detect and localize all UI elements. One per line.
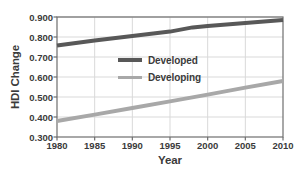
legend-entry: Developed bbox=[118, 53, 218, 67]
legend-color-swatch bbox=[118, 58, 142, 62]
y-tick-label: 0.600 bbox=[20, 73, 53, 82]
x-tick-label: 1990 bbox=[112, 140, 152, 151]
x-tick-label: 1980 bbox=[37, 140, 77, 151]
legend-color-swatch bbox=[118, 76, 142, 79]
y-axis-tick-labels: 0.9000.8000.7000.6000.5000.4000.300 bbox=[20, 17, 53, 137]
x-axis-title: Year bbox=[57, 154, 283, 166]
x-tick-label: 1985 bbox=[75, 140, 115, 151]
x-tick-label: 2005 bbox=[225, 140, 265, 151]
hdi-change-line-chart: HDI Change 0.9000.8000.7000.6000.5000.40… bbox=[0, 0, 297, 175]
y-tick-label: 0.800 bbox=[20, 33, 53, 42]
legend-entry: Developing bbox=[118, 70, 218, 84]
y-tick-label: 0.500 bbox=[20, 93, 53, 102]
y-tick-label: 0.900 bbox=[20, 13, 53, 22]
x-tick-label: 1995 bbox=[150, 140, 190, 151]
legend-label: Developing bbox=[148, 72, 201, 83]
y-tick-label: 0.700 bbox=[20, 53, 53, 62]
x-tick-label: 2010 bbox=[263, 140, 297, 151]
y-tick-label: 0.400 bbox=[20, 113, 53, 122]
chart-legend: DevelopedDeveloping bbox=[118, 53, 218, 87]
legend-label: Developed bbox=[148, 55, 198, 66]
x-axis-tick-labels: 1980198519901995200020052010 bbox=[0, 140, 297, 152]
x-tick-label: 2000 bbox=[188, 140, 228, 151]
